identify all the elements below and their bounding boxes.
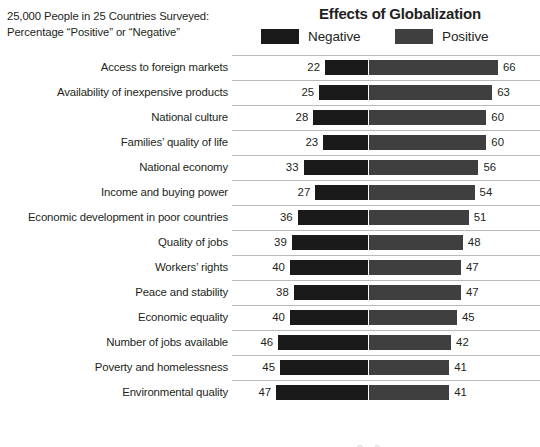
row-label: Income and buying power — [0, 180, 228, 205]
bar-positive[interactable] — [369, 385, 449, 400]
chart-row: Poverty and homelessness4541 — [0, 355, 540, 380]
bar-negative[interactable] — [319, 85, 368, 100]
bar-negative[interactable] — [315, 185, 368, 200]
row-bar-area: 4541 — [232, 355, 540, 380]
value-negative: 40 — [259, 305, 285, 330]
row-label: Access to foreign markets — [0, 55, 228, 80]
bar-positive[interactable] — [369, 85, 492, 100]
bar-positive[interactable] — [369, 110, 486, 125]
chart-row: Environmental quality4741 — [0, 380, 540, 405]
legend-item-positive: Positive — [395, 29, 488, 44]
bar-positive[interactable] — [369, 135, 486, 150]
chart-row-clipped: 00 — [0, 437, 540, 447]
value-positive: 45 — [462, 305, 488, 330]
value-positive: 56 — [483, 155, 509, 180]
value-positive: 47 — [466, 255, 492, 280]
bar-positive[interactable] — [369, 185, 475, 200]
legend-label-positive: Positive — [442, 29, 488, 44]
chart-row: National culture2860 — [0, 105, 540, 130]
value-negative: 46 — [247, 330, 273, 355]
row-bar-area: 3948 — [232, 230, 540, 255]
bar-positive[interactable] — [369, 360, 449, 375]
value-negative: 36 — [267, 205, 293, 230]
bar-positive[interactable] — [369, 260, 461, 275]
chart-title: Effects of Globalization — [260, 5, 540, 22]
row-bar-area: 3847 — [232, 280, 540, 305]
row-label: Families’ quality of life — [0, 130, 228, 155]
row-label: National culture — [0, 105, 228, 130]
row-label: Economic equality — [0, 305, 228, 330]
subtitle-line-2: Percentage “Positive” or “Negative” — [7, 24, 257, 40]
bar-positive[interactable] — [369, 60, 498, 75]
chart-legend: Negative Positive — [255, 29, 540, 49]
chart-rows: Access to foreign markets2266Availabilit… — [0, 55, 540, 405]
chart-row: Quality of jobs3948 — [0, 230, 540, 255]
value-negative: 25 — [288, 80, 314, 105]
chart-row: Families’ quality of life2360 — [0, 130, 540, 155]
bar-positive[interactable] — [369, 310, 457, 325]
value-positive: 47 — [466, 280, 492, 305]
legend-swatch-negative-icon — [261, 29, 299, 44]
value-positive: 0 — [374, 437, 400, 447]
value-positive: 48 — [468, 230, 494, 255]
value-negative: 39 — [261, 230, 287, 255]
bar-negative[interactable] — [323, 135, 368, 150]
bar-negative[interactable] — [292, 235, 368, 250]
value-negative: 27 — [284, 180, 310, 205]
chart-row: Number of jobs available4642 — [0, 330, 540, 355]
row-label — [0, 437, 228, 447]
bar-negative[interactable] — [290, 260, 368, 275]
row-label: Number of jobs available — [0, 330, 228, 355]
row-bar-area: 3356 — [232, 155, 540, 180]
row-bar-area: 00 — [232, 437, 540, 447]
value-negative: 0 — [337, 437, 363, 447]
value-negative: 28 — [282, 105, 308, 130]
value-positive: 42 — [456, 330, 482, 355]
chart-row: Income and buying power2754 — [0, 180, 540, 205]
chart-row: Economic equality4045 — [0, 305, 540, 330]
bar-negative[interactable] — [325, 60, 368, 75]
row-bar-area: 4047 — [232, 255, 540, 280]
value-negative: 33 — [273, 155, 299, 180]
value-negative: 22 — [294, 55, 320, 80]
value-positive: 63 — [497, 80, 523, 105]
value-positive: 66 — [503, 55, 529, 80]
row-bar-area: 3651 — [232, 205, 540, 230]
row-label: Poverty and homelessness — [0, 355, 228, 380]
bar-negative[interactable] — [304, 160, 369, 175]
bar-positive[interactable] — [369, 235, 463, 250]
row-bar-area: 4741 — [232, 380, 540, 405]
value-negative: 40 — [259, 255, 285, 280]
chart-row: Workers’ rights4047 — [0, 255, 540, 280]
row-bar-area: 2754 — [232, 180, 540, 205]
row-bar-area: 4045 — [232, 305, 540, 330]
row-label: Environmental quality — [0, 380, 228, 405]
bar-negative[interactable] — [280, 360, 368, 375]
bar-positive[interactable] — [369, 285, 461, 300]
row-label: Workers’ rights — [0, 255, 228, 280]
bar-negative[interactable] — [290, 310, 368, 325]
bar-negative[interactable] — [276, 385, 368, 400]
chart-header: 25,000 People in 25 Countries Surveyed: … — [0, 0, 540, 55]
row-bar-area: 2266 — [232, 55, 540, 80]
row-label: Economic development in poor countries — [0, 205, 228, 230]
row-label: National economy — [0, 155, 228, 180]
bar-positive[interactable] — [369, 210, 469, 225]
chart-row: Economic development in poor countries36… — [0, 205, 540, 230]
bar-negative[interactable] — [298, 210, 368, 225]
value-positive: 51 — [474, 205, 500, 230]
legend-label-negative: Negative — [308, 29, 360, 44]
chart-row: Peace and stability3847 — [0, 280, 540, 305]
legend-swatch-positive-icon — [395, 29, 433, 44]
chart-row: Availability of inexpensive products2563 — [0, 80, 540, 105]
chart-row: National economy3356 — [0, 155, 540, 180]
bar-negative[interactable] — [294, 285, 368, 300]
bar-positive[interactable] — [369, 160, 478, 175]
chart-row: 00 — [0, 437, 540, 447]
bar-negative[interactable] — [313, 110, 368, 125]
value-positive: 60 — [491, 105, 517, 130]
bar-negative[interactable] — [278, 335, 368, 350]
value-negative: 38 — [263, 280, 289, 305]
bar-positive[interactable] — [369, 335, 451, 350]
row-label: Peace and stability — [0, 280, 228, 305]
